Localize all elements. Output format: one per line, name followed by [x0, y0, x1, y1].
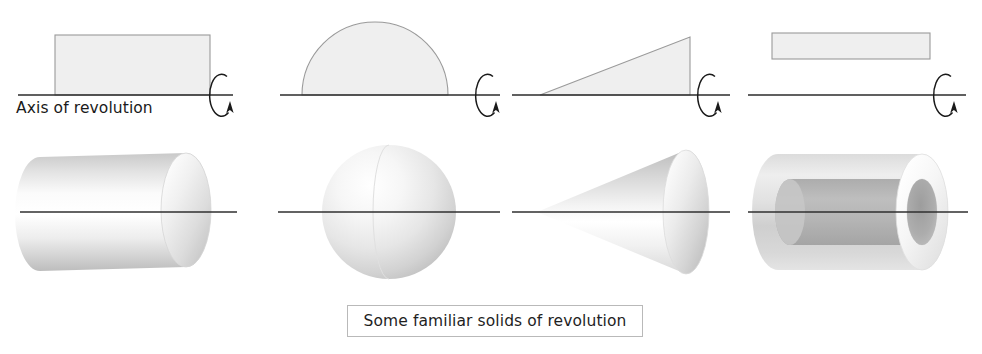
figure-canvas [0, 0, 982, 354]
generator-semicircle [302, 22, 448, 95]
solids-of-revolution-figure: Axis of revolution Some familiar solids … [0, 0, 982, 354]
figure-caption-box: Some familiar solids of revolution [347, 305, 643, 337]
panel-triangle-generator [512, 37, 730, 116]
panel-semicircle-generator [280, 22, 500, 116]
solid-tube [748, 154, 968, 270]
figure-caption-text: Some familiar solids of revolution [364, 312, 627, 330]
cylinder-front-cap [161, 153, 211, 267]
solid-sphere [278, 145, 500, 279]
panel-offset-rectangle-generator [748, 33, 966, 116]
generator-triangle [540, 37, 690, 95]
generator-rectangle [55, 35, 210, 95]
generator-offset-rectangle [772, 33, 930, 59]
axis-of-revolution-label: Axis of revolution [16, 99, 153, 117]
solid-cone [512, 150, 730, 274]
solid-cylinder [15, 153, 237, 271]
